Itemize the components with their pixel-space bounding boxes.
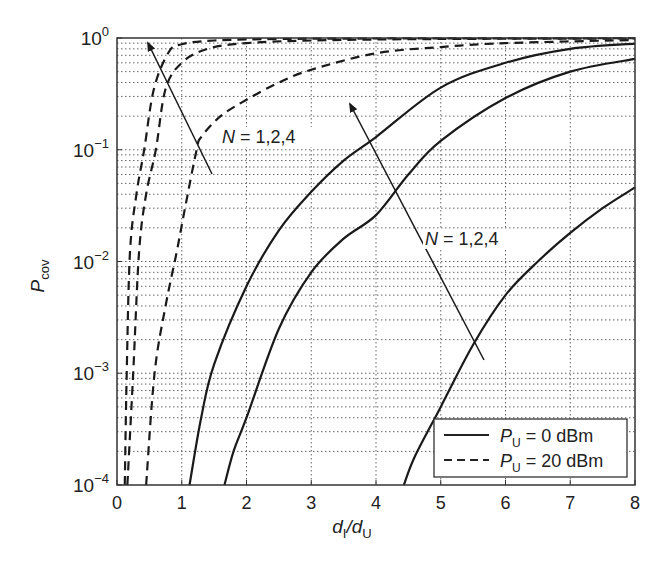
y-tick-label: 10−1: [73, 136, 109, 161]
annotations: N = 1,2,4N = 1,2,4: [148, 43, 515, 360]
legend: PU = 0 dBm PU = 20 dBm: [434, 419, 627, 477]
grid-lines: [117, 38, 635, 485]
y-tick-label: 10−2: [73, 248, 109, 273]
x-tick-label: 6: [500, 493, 510, 513]
x-tick-label: 2: [241, 493, 251, 513]
y-axis-ticks: 10−410−310−210−1100: [73, 24, 122, 496]
y-tick-label: 10−3: [73, 359, 109, 384]
x-axis-label: dI/dU: [332, 516, 371, 541]
annotation-label-0: N = 1,2,4: [222, 127, 296, 147]
x-tick-label: 7: [565, 493, 575, 513]
y-tick-label: 10−4: [73, 471, 109, 496]
x-tick-label: 5: [436, 493, 446, 513]
x-tick-label: 8: [630, 493, 640, 513]
x-tick-label: 3: [306, 493, 316, 513]
x-tick-label: 0: [112, 493, 122, 513]
x-tick-label: 4: [371, 493, 381, 513]
y-tick-label: 100: [81, 24, 109, 49]
y-axis-label: Pcov: [27, 259, 52, 292]
x-tick-label: 1: [177, 493, 187, 513]
annotation-label-1: N = 1,2,4: [425, 229, 499, 249]
coverage-probability-chart: N = 1,2,4N = 1,2,4 012345678 10−410−310−…: [0, 0, 662, 562]
dashed-curve-5: [146, 40, 635, 485]
